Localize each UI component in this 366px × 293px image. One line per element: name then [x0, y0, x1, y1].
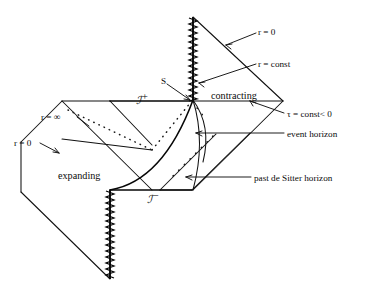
label-r-zero-left: r = 0: [14, 138, 32, 148]
label-r-zero-top: r = 0: [258, 27, 276, 37]
leader-r-infinity: [77, 117, 89, 126]
diagram-canvas: r = 0 r = const τ = const< 0 event horiz…: [0, 0, 366, 293]
upper-singularity-zigzag: [189, 17, 197, 101]
diagram-text-labels: r = 0 r = const τ = const< 0 event horiz…: [14, 27, 338, 205]
event-horizon-edge: [192, 133, 250, 190]
contracting-inner-curve: [193, 100, 200, 190]
arrowhead-r-const: [199, 82, 205, 87]
label-r-const-top: r = const: [258, 59, 291, 69]
scri-minus-superscript: −: [152, 189, 159, 201]
lower-singularity-zigzag: [106, 190, 114, 279]
label-tau-const-negative: τ = const< 0: [287, 109, 332, 119]
dotted-right-hidden-edge: [173, 135, 214, 176]
arrowhead-tau-const: [250, 101, 256, 106]
hidden-dotted-edges: [68, 102, 214, 176]
leader-r-const: [199, 64, 256, 83]
label-past-de-sitter-horizon: past de Sitter horizon: [254, 173, 333, 183]
leader-r-zero-left: [40, 143, 59, 153]
expanding-lower-left-edge: [21, 192, 110, 279]
label-contracting: contracting: [211, 90, 257, 101]
label-event-horizon: event horizon: [287, 129, 338, 139]
penrose-diagram-figure: r = 0 r = const τ = const< 0 event horiz…: [0, 0, 366, 293]
contracting-region-outline: [160, 17, 283, 190]
leader-surface-s: [167, 84, 190, 100]
expanding-inner-fold: [62, 139, 152, 150]
label-expanding: expanding: [58, 170, 100, 181]
curved-fold-surfaces: [110, 100, 206, 190]
dotted-diagonal-hidden-edge: [152, 102, 191, 150]
label-scri-plus: ℐ+: [136, 90, 148, 106]
lower-singularity-teeth: [106, 191, 114, 278]
dotted-upper-hidden-edge: [68, 110, 152, 150]
scri-plus-superscript: +: [141, 90, 148, 102]
label-scri-minus: ℐ−: [147, 189, 159, 205]
expanding-front-left-edge: [110, 101, 152, 145]
label-surface-s: S: [161, 76, 166, 86]
label-r-infinity: r = ∞: [41, 112, 61, 122]
leader-r-zero-top: [226, 33, 256, 45]
arrowhead-past-horizon: [186, 175, 192, 180]
